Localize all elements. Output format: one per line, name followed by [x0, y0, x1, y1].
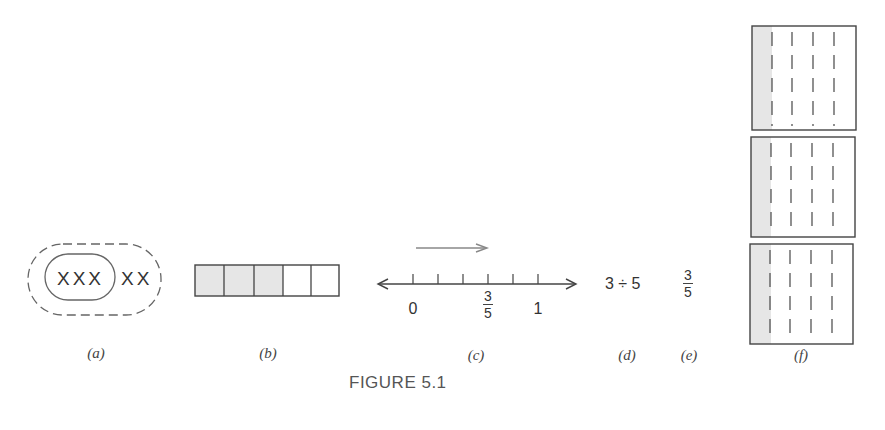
fraction-notation: 3 5	[683, 268, 693, 299]
whole-2	[751, 137, 855, 237]
panel-c-number-line	[378, 244, 576, 289]
panel-label-a: (a)	[87, 345, 105, 362]
panel-label-f: (f)	[794, 347, 808, 364]
panel-b-bar	[195, 265, 339, 296]
panel-label-e: (e)	[681, 347, 698, 364]
panel-label-d: (d)	[618, 347, 636, 364]
whole-3	[750, 244, 853, 344]
outer-set-objects: XX	[121, 268, 152, 290]
panel-label-b: (b)	[259, 345, 277, 362]
inner-set-objects: XXX	[57, 268, 104, 290]
panel-label-c: (c)	[468, 347, 485, 364]
panel-f-wholes	[750, 26, 856, 344]
fraction-denominator: 5	[684, 285, 692, 299]
number-line-label-one: 1	[534, 300, 543, 318]
fraction-denominator: 5	[484, 306, 492, 320]
division-expression: 3 ÷ 5	[605, 275, 640, 293]
number-line-label-zero: 0	[409, 300, 418, 318]
whole-1	[752, 26, 856, 130]
number-line-fraction: 3 5	[483, 289, 493, 320]
fraction-numerator: 3	[684, 268, 692, 282]
figure-caption: FIGURE 5.1	[349, 373, 447, 393]
fraction-numerator: 3	[484, 289, 492, 303]
figure-canvas	[0, 0, 885, 430]
